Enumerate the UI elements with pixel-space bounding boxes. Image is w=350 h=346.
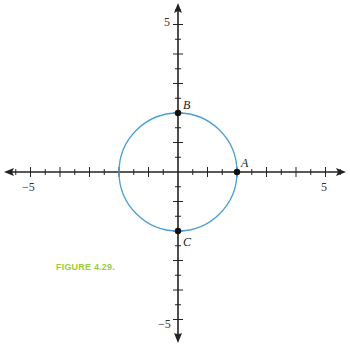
x-tick-label-neg5: −5 [22, 180, 35, 194]
label-c: C [183, 235, 192, 249]
coordinate-plane: A B C −5 5 5 −5 [0, 0, 350, 346]
figure-caption: FIGURE 4.29. [56, 262, 115, 272]
label-b: B [183, 98, 191, 112]
point-b [175, 110, 181, 116]
point-c [175, 228, 181, 234]
point-a [234, 169, 240, 175]
x-tick-label-pos5: 5 [321, 180, 327, 194]
label-a: A [240, 156, 249, 170]
y-tick-label-pos5: 5 [164, 15, 170, 29]
y-tick-label-neg5: −5 [158, 317, 171, 331]
